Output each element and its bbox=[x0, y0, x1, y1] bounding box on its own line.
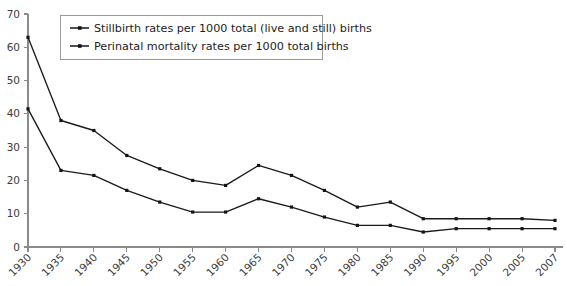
series-data-point bbox=[290, 205, 293, 208]
series-data-point bbox=[389, 200, 392, 203]
series-data-point bbox=[488, 227, 491, 230]
series-data-point bbox=[158, 167, 161, 170]
series-data-point bbox=[59, 119, 62, 122]
y-axis-tick-label: 0 bbox=[13, 241, 20, 253]
series-data-point bbox=[356, 224, 359, 227]
x-axis-tick-label: 1935 bbox=[39, 251, 66, 278]
x-axis-tick-label: 1990 bbox=[401, 251, 428, 278]
x-axis-tick-label: 1960 bbox=[204, 251, 231, 278]
series-data-point bbox=[323, 215, 326, 218]
y-axis-tick-label: 40 bbox=[7, 107, 20, 119]
series-data-point bbox=[455, 227, 458, 230]
series-data-point bbox=[520, 217, 523, 220]
series-line-1 bbox=[28, 109, 555, 232]
x-axis-tick-label: 1950 bbox=[138, 251, 165, 278]
y-axis-tick-label: 70 bbox=[7, 8, 20, 20]
series-data-point bbox=[323, 189, 326, 192]
series-data-point bbox=[389, 224, 392, 227]
x-axis-tick-label: 1995 bbox=[434, 251, 461, 278]
series-data-point bbox=[191, 210, 194, 213]
line-chart: 0102030405060701930193519401945195019551… bbox=[0, 0, 567, 286]
chart-container: 0102030405060701930193519401945195019551… bbox=[0, 0, 567, 286]
y-axis-tick-label: 30 bbox=[7, 141, 20, 153]
series-data-point bbox=[125, 154, 128, 157]
series-data-point bbox=[26, 107, 29, 110]
x-axis-tick-label: 1965 bbox=[237, 251, 264, 278]
series-line-0 bbox=[28, 37, 555, 220]
series-data-point bbox=[59, 169, 62, 172]
series-data-point bbox=[422, 230, 425, 233]
series-data-point bbox=[92, 129, 95, 132]
series-data-point bbox=[224, 184, 227, 187]
series-data-point bbox=[488, 217, 491, 220]
series-data-point bbox=[257, 164, 260, 167]
legend-entry-label: Perinatal mortality rates per 1000 total… bbox=[94, 40, 349, 53]
series-data-point bbox=[158, 200, 161, 203]
series-data-point bbox=[455, 217, 458, 220]
x-axis-tick-label: 1980 bbox=[335, 251, 362, 278]
x-axis-tick-label: 2007 bbox=[533, 251, 560, 278]
x-axis-tick-label: 2000 bbox=[467, 251, 494, 278]
series-data-point bbox=[26, 36, 29, 39]
x-axis-tick-label: 1955 bbox=[171, 251, 198, 278]
x-axis-tick-label: 1940 bbox=[72, 251, 99, 278]
y-axis-tick-label: 20 bbox=[7, 174, 20, 186]
series-data-point bbox=[92, 174, 95, 177]
series-data-point bbox=[125, 189, 128, 192]
series-data-point bbox=[290, 174, 293, 177]
x-axis-tick-label: 1985 bbox=[368, 251, 395, 278]
x-axis-tick-label: 1945 bbox=[105, 251, 132, 278]
series-data-point bbox=[356, 205, 359, 208]
series-data-point bbox=[191, 179, 194, 182]
series-data-point bbox=[422, 217, 425, 220]
y-axis-tick-label: 50 bbox=[7, 74, 20, 86]
legend-entry-label: Stillbirth rates per 1000 total (live an… bbox=[94, 22, 372, 35]
x-axis-tick-label: 2005 bbox=[500, 251, 527, 278]
x-axis-tick-label: 1970 bbox=[270, 251, 297, 278]
y-axis-tick-label: 10 bbox=[7, 207, 20, 219]
x-axis-tick-label: 1975 bbox=[302, 251, 329, 278]
series-data-point bbox=[257, 197, 260, 200]
y-axis-tick-label: 60 bbox=[7, 41, 20, 53]
legend-marker-sample bbox=[78, 44, 82, 48]
series-data-point bbox=[520, 227, 523, 230]
legend-marker-sample bbox=[78, 26, 82, 30]
x-axis-tick-label: 1930 bbox=[6, 251, 33, 278]
series-data-point bbox=[553, 219, 556, 222]
series-data-point bbox=[224, 210, 227, 213]
series-data-point bbox=[553, 227, 556, 230]
